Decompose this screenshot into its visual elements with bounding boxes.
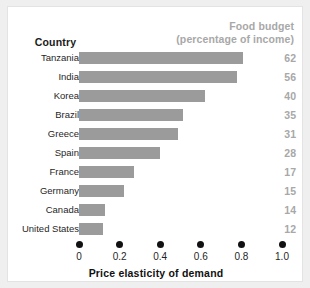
axis-tick-label: 0.8 [221,251,261,262]
food-budget-value: 31 [270,128,296,140]
bar [79,109,183,121]
food-budget-value: 28 [270,147,296,159]
bar [79,128,178,140]
chart-figure: Food budget (percentage of income) Count… [7,6,303,282]
food-budget-value: 35 [270,109,296,121]
category-label: Korea [8,90,79,102]
axis-tick-label: 0.4 [140,251,180,262]
axis-tick-dot [157,241,164,248]
bar [79,71,237,83]
x-axis: Price elasticity of demand 00.20.40.60.8… [8,241,303,282]
x-axis-title: Price elasticity of demand [8,267,303,279]
food-budget-header: Food budget (percentage of income) [114,20,294,46]
axis-tick-dot [197,241,204,248]
chart-row: Canada14 [8,203,303,222]
axis-tick-dot [279,241,286,248]
food-budget-value: 12 [270,223,296,235]
bar [79,166,134,178]
bar [79,52,243,64]
bar [79,147,160,159]
axis-tick-dot [238,241,245,248]
chart-row: United States12 [8,222,303,241]
category-label: Spain [8,147,79,159]
food-budget-value: 40 [270,90,296,102]
country-header: Country [28,36,83,48]
category-label: France [8,166,79,178]
category-label: Germany [8,185,79,197]
chart-row: Tanzania62 [8,51,303,70]
bar [79,90,205,102]
food-budget-header-line1: Food budget [114,20,294,33]
axis-tick-label: 1.0 [262,251,302,262]
food-budget-value: 17 [270,166,296,178]
chart-row: Spain28 [8,146,303,165]
axis-tick-dot [76,241,83,248]
category-label: United States [8,223,79,235]
food-budget-value: 62 [270,52,296,64]
food-budget-value: 56 [270,71,296,83]
category-label: Tanzania [8,52,79,64]
chart-row: France17 [8,165,303,184]
category-label: Canada [8,204,79,216]
category-label: Brazil [8,109,79,121]
food-budget-header-line2: (percentage of income) [114,33,294,46]
bar [79,185,124,197]
food-budget-value: 14 [270,204,296,216]
axis-tick-label: 0.6 [181,251,221,262]
category-label: India [8,71,79,83]
chart-row: Germany15 [8,184,303,203]
axis-tick-label: 0.2 [100,251,140,262]
axis-tick-dot [116,241,123,248]
chart-row: Greece31 [8,127,303,146]
bar [79,204,105,216]
food-budget-value: 15 [270,185,296,197]
chart-row: India56 [8,70,303,89]
bar-rows: Tanzania62India56Korea40Brazil35Greece31… [8,51,303,241]
category-label: Greece [8,128,79,140]
chart-row: Korea40 [8,89,303,108]
chart-row: Brazil35 [8,108,303,127]
axis-tick-label: 0 [59,251,99,262]
bar [79,223,103,235]
